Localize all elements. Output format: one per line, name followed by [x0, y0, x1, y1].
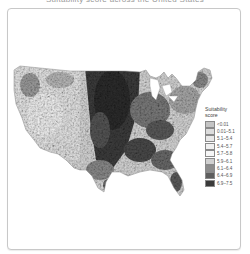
legend-label: 6.1–6.4	[217, 166, 232, 171]
legend-item: 6.4–6.9	[205, 172, 245, 179]
legend-item: 5.7–5.8	[205, 150, 245, 157]
legend-item: 5.1–5.4	[205, 135, 245, 142]
legend-item: 5.9–6.1	[205, 157, 245, 164]
legend-swatch	[205, 121, 215, 128]
legend-swatch	[205, 158, 215, 165]
legend-swatch	[205, 172, 215, 179]
legend-title-line2: score	[205, 113, 245, 119]
legend-item: 6.1–6.4	[205, 165, 245, 172]
legend-label: <0.01	[217, 122, 229, 127]
legend-swatch	[205, 143, 215, 150]
legend-item: 6.9–7.5	[205, 180, 245, 187]
legend-label: 0.01–5.1	[217, 129, 235, 134]
legend-swatch	[205, 165, 215, 172]
legend-swatch	[205, 150, 215, 157]
legend-label: 5.7–5.8	[217, 151, 232, 156]
legend-swatch	[205, 135, 215, 142]
legend-label: 6.9–7.5	[217, 181, 232, 186]
legend-swatch	[205, 180, 215, 187]
legend-item: 0.01–5.1	[205, 128, 245, 135]
legend-label: 5.4–5.7	[217, 144, 232, 149]
map-legend: Suitability score <0.01 0.01–5.1 5.1–5.4…	[205, 107, 245, 187]
legend-title: Suitability score	[205, 107, 245, 118]
legend-item: <0.01	[205, 120, 245, 127]
legend-swatch	[205, 128, 215, 135]
legend-label: 5.1–5.4	[217, 136, 232, 141]
legend-label: 6.4–6.9	[217, 173, 232, 178]
legend-label: 5.9–6.1	[217, 159, 232, 164]
legend-item: 5.4–5.7	[205, 143, 245, 150]
